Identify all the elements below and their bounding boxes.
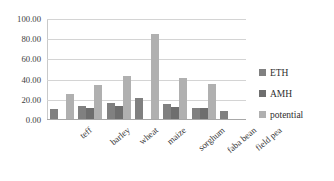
bar-chart: 100.0080.0060.0040.0020.000.00 teffbarle… (0, 0, 334, 181)
bar (107, 103, 115, 119)
bar (192, 108, 200, 119)
x-axis-tick: maize (133, 121, 161, 181)
y-axis-tick-label: 100.00 (0, 15, 41, 24)
y-axis-tick-label: 60.00 (0, 55, 41, 64)
y-axis-tick-label: 0.00 (0, 116, 41, 125)
x-axis-tick: faba bean (190, 121, 218, 181)
bar (123, 76, 131, 119)
bar (200, 108, 208, 119)
bar (151, 34, 159, 119)
bar (94, 85, 102, 119)
plot-area (47, 19, 246, 120)
bar-group (105, 19, 133, 119)
bar (171, 107, 179, 119)
bar (78, 106, 86, 119)
legend-item[interactable]: ETH (259, 64, 334, 81)
bar (179, 78, 187, 119)
x-axis-tick: sorghum (162, 121, 190, 181)
bar (115, 106, 123, 119)
bar-groups (48, 19, 246, 119)
y-axis-tick-label: 20.00 (0, 96, 41, 105)
y-axis: 100.0080.0060.0040.0020.000.00 (0, 14, 44, 120)
legend-item[interactable]: potential (259, 106, 334, 123)
legend-swatch-icon (259, 111, 266, 118)
x-axis-tick-label: field pea (253, 125, 283, 153)
x-axis-line (47, 119, 246, 120)
bar (135, 98, 143, 119)
bar-group (218, 19, 246, 119)
y-axis-tick-label: 40.00 (0, 76, 41, 85)
bar-group (133, 19, 161, 119)
legend-label: AMH (270, 89, 292, 99)
bar-group (189, 19, 217, 119)
bar (66, 94, 74, 119)
bar (163, 104, 171, 119)
legend-label: ETH (270, 68, 288, 78)
bar (86, 108, 94, 119)
legend-swatch-icon (259, 90, 266, 97)
bar (208, 84, 216, 119)
x-axis-tick: barley (76, 121, 104, 181)
bar (50, 109, 58, 119)
bar-group (48, 19, 76, 119)
bar-group (76, 19, 104, 119)
bar-group (161, 19, 189, 119)
bar (220, 111, 228, 119)
legend-swatch-icon (259, 69, 266, 76)
x-axis-tick: field pea (219, 121, 247, 181)
x-axis-tick: wheat (105, 121, 133, 181)
x-axis: teffbarleywheatmaizesorghumfaba beanfiel… (48, 121, 247, 181)
y-axis-tick-label: 80.00 (0, 35, 41, 44)
x-axis-tick: teff (48, 121, 76, 181)
legend-item[interactable]: AMH (259, 85, 334, 102)
legend-label: potential (270, 110, 303, 120)
chart-legend: ETHAMHpotential (259, 64, 334, 127)
